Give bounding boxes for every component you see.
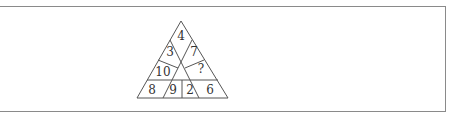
cell-bottom-4: 6 bbox=[206, 83, 214, 97]
cell-bottom-2: 9 bbox=[169, 83, 177, 97]
cell-top: 4 bbox=[177, 29, 185, 43]
cell-middle-left: 10 bbox=[155, 65, 170, 79]
number-triangle-diagram: 4 3 7 10 ? 8 9 2 6 bbox=[0, 0, 466, 121]
cell-upper-left: 3 bbox=[166, 45, 174, 59]
cell-bottom-1: 8 bbox=[148, 83, 156, 97]
cell-bottom-3: 2 bbox=[186, 83, 194, 97]
cell-upper-right: 7 bbox=[190, 45, 198, 59]
cell-middle-right: ? bbox=[198, 62, 204, 76]
